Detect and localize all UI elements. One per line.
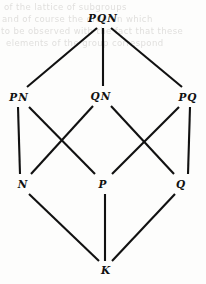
lattice-edge-QN-Q bbox=[111, 106, 174, 174]
lattice-node-PQ: PQ bbox=[178, 91, 197, 103]
lattice-node-PQN: PQN bbox=[88, 12, 118, 24]
lattice-node-P: P bbox=[99, 178, 108, 190]
lattice-node-QN: QN bbox=[91, 90, 112, 102]
lattice-edge-Q-K bbox=[112, 194, 175, 261]
lattice-node-N: N bbox=[18, 178, 29, 190]
lattice-edge-PQN-PQ bbox=[111, 28, 182, 87]
lattice-node-K: K bbox=[101, 264, 111, 276]
lattice-diagram-figure: of the lattice of subgroups and of cours… bbox=[0, 0, 206, 284]
lattice-edge-N-K bbox=[29, 194, 99, 261]
lattice-node-PN: PN bbox=[9, 91, 29, 103]
lattice-edge-PQ-Q bbox=[188, 107, 190, 174]
lattice-edges bbox=[0, 0, 206, 284]
lattice-edge-PQN-PN bbox=[27, 28, 97, 87]
lattice-node-Q: Q bbox=[176, 178, 186, 190]
lattice-edge-PN-N bbox=[18, 107, 20, 174]
